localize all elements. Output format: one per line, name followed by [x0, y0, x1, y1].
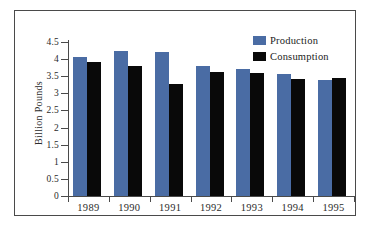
x-axis-tick	[313, 196, 314, 202]
y-axis-tick	[61, 76, 68, 77]
x-axis-label-1989: 1989	[77, 202, 99, 213]
y-axis-tick-label: 0	[15, 191, 59, 201]
chart-figure: Billion Pounds 00.511.522.533.544.5 1989…	[14, 10, 356, 216]
bar-consumption-1995	[332, 78, 346, 196]
bar-production-1992	[196, 66, 210, 196]
y-axis-tick	[61, 42, 68, 43]
bar-production-1989	[73, 57, 87, 196]
bar-production-1991	[155, 52, 169, 196]
y-axis-tick-label: 2	[15, 123, 59, 133]
bar-production-1994	[277, 74, 291, 197]
x-axis-label-1992: 1992	[200, 202, 222, 213]
bar-consumption-1992	[210, 72, 224, 196]
x-axis-tick	[109, 196, 110, 202]
bar-group	[110, 42, 151, 196]
bar-consumption-1993	[250, 73, 264, 196]
x-axis-tick	[231, 196, 232, 202]
bar-group	[192, 42, 233, 196]
y-axis-tick-label: 0.5	[15, 174, 59, 184]
legend-swatch-icon	[253, 52, 266, 61]
y-axis-tick-label: 1	[15, 157, 59, 167]
y-axis-tick	[61, 145, 68, 146]
x-axis-label-1995: 1995	[322, 202, 344, 213]
bar-group	[273, 42, 314, 196]
bar-production-1993	[236, 69, 250, 196]
bar-consumption-1989	[87, 62, 101, 196]
x-axis-label-1993: 1993	[241, 202, 263, 213]
chart-legend: ProductionConsumption	[253, 33, 329, 65]
y-axis-tick	[61, 59, 68, 60]
legend-label: Consumption	[270, 51, 329, 62]
bar-group	[151, 42, 192, 196]
x-axis-tick	[150, 196, 151, 202]
x-axis-tick	[191, 196, 192, 202]
bar-group	[69, 42, 110, 196]
y-axis-tick	[61, 179, 68, 180]
y-axis-tick-label: 4	[15, 54, 59, 64]
x-axis-label-1994: 1994	[282, 202, 304, 213]
y-axis-tick-label: 3	[15, 88, 59, 98]
bar-group	[232, 42, 273, 196]
legend-item: Production	[253, 33, 329, 47]
y-axis-tick	[61, 162, 68, 163]
y-axis-tick	[61, 93, 68, 94]
legend-label: Production	[270, 35, 318, 46]
y-axis-tick-label: 1.5	[15, 140, 59, 150]
legend-item: Consumption	[253, 49, 329, 63]
bar-group	[314, 42, 355, 196]
x-axis-tick	[68, 196, 69, 202]
y-axis-tick	[61, 128, 68, 129]
x-axis-label-1991: 1991	[159, 202, 181, 213]
y-axis-tick-label: 4.5	[15, 37, 59, 47]
plot-area	[69, 42, 355, 196]
y-axis-tick-label: 3.5	[15, 71, 59, 81]
y-axis-tick	[61, 110, 68, 111]
bar-production-1995	[318, 80, 332, 196]
legend-swatch-icon	[253, 36, 266, 45]
y-axis-tick-label: 2.5	[15, 105, 59, 115]
bar-consumption-1990	[128, 66, 142, 196]
x-axis-tick	[354, 196, 355, 202]
bar-consumption-1994	[291, 79, 305, 196]
bar-production-1990	[114, 51, 128, 196]
x-axis-label-1990: 1990	[118, 202, 140, 213]
y-axis-tick	[61, 196, 68, 197]
bar-consumption-1991	[169, 84, 183, 196]
x-axis-tick	[272, 196, 273, 202]
